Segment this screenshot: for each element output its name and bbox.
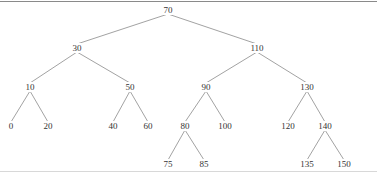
tree-edge bbox=[185, 91, 206, 122]
tree-edge bbox=[288, 91, 307, 122]
tree-edge bbox=[130, 91, 148, 122]
tree-edge bbox=[30, 52, 77, 83]
tree-edges bbox=[0, 0, 377, 172]
tree-edge bbox=[257, 52, 307, 83]
tree-node-150: 150 bbox=[336, 159, 352, 169]
tree-node-90: 90 bbox=[201, 82, 212, 92]
tree-edge bbox=[307, 91, 325, 122]
tree-edge bbox=[185, 130, 204, 160]
tree-edge bbox=[77, 52, 130, 83]
tree-node-40: 40 bbox=[108, 121, 119, 131]
tree-edge bbox=[325, 130, 344, 160]
tree-edge bbox=[168, 14, 257, 44]
tree-node-120: 120 bbox=[280, 121, 296, 131]
tree-edge bbox=[30, 91, 48, 122]
tree-node-10: 10 bbox=[25, 82, 36, 92]
tree-node-50: 50 bbox=[125, 82, 136, 92]
tree-node-20: 20 bbox=[43, 121, 54, 131]
tree-edge bbox=[206, 91, 225, 122]
tree-node-80: 80 bbox=[180, 121, 191, 131]
tree-node-0: 0 bbox=[8, 121, 15, 131]
tree-edge bbox=[168, 130, 185, 160]
tree-edge bbox=[11, 91, 30, 122]
tree-node-110: 110 bbox=[249, 43, 264, 53]
tree-edge bbox=[77, 14, 168, 44]
tree-node-30: 30 bbox=[72, 43, 83, 53]
tree-edge bbox=[206, 52, 257, 83]
tree-node-75: 75 bbox=[163, 159, 174, 169]
tree-node-85: 85 bbox=[199, 159, 210, 169]
tree-node-130: 130 bbox=[299, 82, 315, 92]
tree-node-100: 100 bbox=[217, 121, 233, 131]
tree-node-60: 60 bbox=[143, 121, 154, 131]
tree-edge bbox=[307, 130, 325, 160]
tree-node-135: 135 bbox=[299, 159, 315, 169]
tree-node-140: 140 bbox=[317, 121, 333, 131]
tree-node-70: 70 bbox=[163, 5, 174, 15]
tree-edge bbox=[113, 91, 130, 122]
